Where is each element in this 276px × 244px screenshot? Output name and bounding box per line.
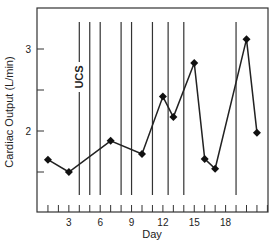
x-tick-label: 15 [189,217,201,228]
data-point-marker [190,59,198,67]
x-axis-label: Day [142,228,162,240]
data-point-marker [253,129,261,137]
data-point-marker [169,113,177,121]
y-tick-label: 2 [25,126,31,137]
annotations: UCS [73,62,85,92]
x-tick-label: 3 [66,217,72,228]
y-tick-label: 3 [25,44,31,55]
x-axis-ticks: 369121518 [48,205,267,228]
cardiac-output-chart: 369121518 23 UCS Day Cardiac Output (L/m… [0,0,276,244]
data-point-marker [44,156,52,164]
x-tick-label: 18 [220,217,232,228]
x-tick-label: 9 [129,217,135,228]
data-point-marker [138,150,146,158]
y-axis-ticks: 23 [25,44,44,172]
data-point-marker [159,93,167,101]
x-tick-label: 6 [97,217,103,228]
x-tick-label: 12 [157,217,169,228]
ucs-annotation: UCS [73,65,85,88]
data-point-marker [243,35,251,43]
y-axis-label: Cardiac Output (L/min) [3,56,15,167]
